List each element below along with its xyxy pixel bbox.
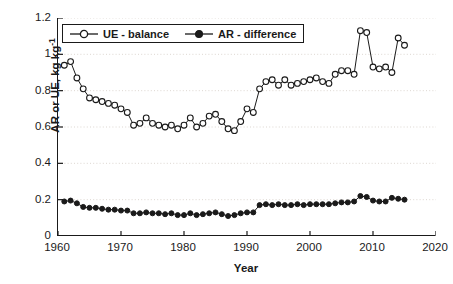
data-point: [376, 66, 382, 72]
data-point: [188, 211, 193, 216]
y-tick-label: 0.6: [17, 121, 51, 133]
x-tick-label: 1970: [97, 242, 143, 254]
data-point: [389, 70, 395, 76]
data-point: [395, 35, 401, 41]
data-point: [364, 30, 370, 36]
data-point: [339, 68, 345, 74]
data-point: [118, 106, 124, 112]
data-point: [402, 42, 408, 48]
y-tick-label: 1.2: [17, 12, 51, 24]
data-point: [81, 204, 86, 209]
data-point: [131, 122, 137, 128]
data-point: [207, 211, 212, 216]
data-point: [301, 79, 307, 85]
data-point: [93, 205, 98, 210]
data-point: [289, 203, 294, 208]
data-point: [169, 211, 174, 216]
data-point: [257, 86, 263, 92]
data-point: [232, 128, 238, 134]
y-tick-label: 0: [17, 230, 51, 242]
data-point: [245, 210, 250, 215]
data-point: [238, 119, 244, 125]
data-point: [137, 120, 143, 126]
data-point: [244, 106, 250, 112]
x-tick-label: 1980: [160, 242, 206, 254]
data-point: [150, 120, 156, 126]
data-point: [156, 211, 161, 216]
data-point: [182, 213, 187, 218]
data-point: [226, 214, 231, 219]
y-tick-label: 0.8: [17, 85, 51, 97]
data-point: [276, 202, 281, 207]
legend-item-ar-difference: AR - difference: [185, 28, 296, 40]
series-ar-difference: [62, 194, 407, 219]
data-point: [326, 81, 332, 87]
data-point: [282, 77, 288, 83]
data-point: [383, 64, 389, 70]
x-tick-label: 2010: [349, 242, 395, 254]
data-point: [288, 82, 294, 88]
data-point: [276, 82, 282, 88]
data-point: [131, 211, 136, 216]
data-point: [187, 115, 193, 121]
data-point: [250, 110, 256, 116]
open-circle-marker-icon: [70, 28, 98, 40]
data-point: [194, 213, 199, 218]
data-point: [320, 202, 325, 207]
data-point: [251, 210, 256, 215]
data-point: [333, 201, 338, 206]
data-point: [74, 75, 80, 81]
chart-canvas: [58, 18, 436, 236]
data-point: [371, 198, 376, 203]
data-point: [106, 100, 112, 106]
data-point: [364, 194, 369, 199]
data-point: [307, 77, 313, 83]
x-tick-label: 2020: [412, 242, 453, 254]
data-point: [93, 97, 99, 103]
data-point: [232, 213, 237, 218]
data-point: [370, 64, 376, 70]
data-point: [99, 99, 105, 105]
data-point: [377, 199, 382, 204]
chart-legend: UE - balance AR - difference: [62, 24, 304, 43]
data-point: [345, 200, 350, 205]
data-point: [351, 71, 357, 77]
data-point: [80, 86, 86, 92]
data-point: [144, 210, 149, 215]
data-point: [112, 102, 118, 108]
data-point: [213, 111, 219, 117]
legend-label-ar-difference: AR - difference: [218, 28, 296, 40]
data-point: [181, 122, 187, 128]
data-point: [143, 115, 149, 121]
data-point: [100, 206, 105, 211]
y-tick-label: 0.2: [17, 194, 51, 206]
data-point: [87, 95, 93, 101]
data-point: [358, 28, 364, 34]
y-tick-label: 0.4: [17, 157, 51, 169]
data-point: [308, 202, 313, 207]
data-point: [61, 62, 67, 68]
data-point: [402, 197, 407, 202]
data-point: [124, 110, 130, 116]
data-point: [314, 202, 319, 207]
data-point: [163, 212, 168, 217]
data-point: [358, 194, 363, 199]
series-ue-balance: [61, 28, 407, 134]
data-point: [389, 195, 394, 200]
data-point: [219, 212, 224, 217]
data-point: [68, 198, 73, 203]
data-point: [62, 199, 67, 204]
data-point: [119, 208, 124, 213]
data-point: [269, 77, 275, 83]
data-point: [156, 122, 162, 128]
data-point: [162, 124, 168, 130]
data-point: [219, 119, 225, 125]
plot-area: [57, 18, 435, 236]
data-point: [175, 213, 180, 218]
y-axis-title-exponent: -1: [47, 38, 57, 46]
data-point: [282, 203, 287, 208]
x-tick-label: 1990: [223, 242, 269, 254]
data-point: [87, 205, 92, 210]
data-point: [238, 211, 243, 216]
data-point: [74, 201, 79, 206]
